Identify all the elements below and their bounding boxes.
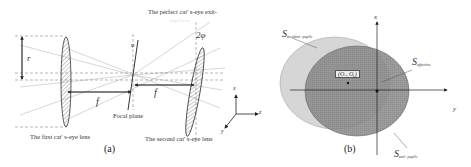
s-exit-label: Sexit−pupils (394, 148, 417, 159)
caption-b: (b) (344, 143, 356, 154)
perfect-exit-faded-label: pupil lens (170, 18, 190, 23)
axis-x-label-b: x (374, 13, 377, 21)
f-right-label: f (154, 87, 157, 98)
figure-b-pupil-overlap: x y Sincident−pupils Seffective Sexit−pu… (262, 0, 471, 167)
axis-y-label: y (221, 128, 224, 134)
figure-a-cats-eye-optics: The perfect cat' s-eye exit- pupil lens … (0, 0, 262, 167)
axis-x-label: x (233, 85, 236, 91)
second-lens-label: The second cat' s-eye lens (145, 135, 213, 142)
optics-drawing (0, 0, 262, 167)
focal-plane-label: Focal plane (113, 112, 143, 119)
first-lens (61, 37, 71, 127)
phi-label: φ (131, 42, 134, 48)
origin-point (376, 90, 379, 93)
axis-triad (225, 95, 258, 128)
axis-z-label: z (259, 109, 261, 115)
two-phi-label: 2φ (196, 30, 205, 40)
axis-y-label-b: y (453, 105, 456, 113)
f-left-label: f (96, 96, 99, 107)
perfect-exit-label: The perfect cat' s-eye exit- (148, 8, 217, 15)
offset-point (347, 82, 349, 84)
r-label: r (27, 53, 31, 63)
second-lens (182, 47, 207, 137)
caption-a: (a) (104, 143, 115, 154)
exit-pupil-circle (305, 46, 409, 136)
s-effective-label: Seffective (412, 56, 430, 67)
offset-point-label: (Oₓ, Oᵧ) (335, 70, 360, 78)
s-incident-label: Sincident−pupils (282, 28, 312, 39)
pupil-drawing (262, 0, 471, 167)
first-lens-label: The first cat' s-eye lens (30, 133, 90, 140)
